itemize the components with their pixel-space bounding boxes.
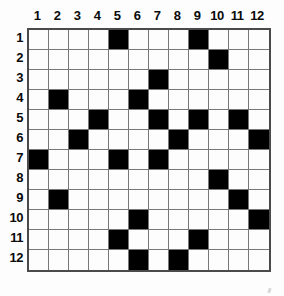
grid-cell-r8c7[interactable]: [149, 170, 169, 190]
grid-cell-r12c1[interactable]: [29, 250, 49, 270]
grid-cell-r3c8[interactable]: [169, 70, 189, 90]
grid-cell-r2c8[interactable]: [169, 50, 189, 70]
grid-cell-r2c7[interactable]: [149, 50, 169, 70]
grid-cell-r8c8[interactable]: [169, 170, 189, 190]
grid-cell-r11c2[interactable]: [49, 230, 69, 250]
grid-cell-r8c2[interactable]: [49, 170, 69, 190]
grid-cell-r6c10[interactable]: [209, 130, 229, 150]
grid-cell-r11c10[interactable]: [209, 230, 229, 250]
grid-cell-r2c10[interactable]: [209, 50, 229, 70]
grid-cell-r6c2[interactable]: [49, 130, 69, 150]
grid-cell-r8c5[interactable]: [109, 170, 129, 190]
grid-cell-r1c10[interactable]: [209, 30, 229, 50]
grid-cell-r3c9[interactable]: [189, 70, 209, 90]
grid-cell-r6c3[interactable]: [69, 130, 89, 150]
grid-cell-r5c12[interactable]: [249, 110, 269, 130]
grid-cell-r6c4[interactable]: [89, 130, 109, 150]
grid-cell-r4c9[interactable]: [189, 90, 209, 110]
grid-cell-r11c9[interactable]: [189, 230, 209, 250]
grid-cell-r1c9[interactable]: [189, 30, 209, 50]
grid-cell-r3c10[interactable]: [209, 70, 229, 90]
grid-cell-r2c6[interactable]: [129, 50, 149, 70]
grid-cell-r10c8[interactable]: [169, 210, 189, 230]
grid-cell-r11c1[interactable]: [29, 230, 49, 250]
grid-cell-r12c12[interactable]: [249, 250, 269, 270]
puzzle-grid[interactable]: [27, 28, 271, 272]
grid-cell-r12c2[interactable]: [49, 250, 69, 270]
grid-cell-r7c2[interactable]: [49, 150, 69, 170]
grid-cell-r9c9[interactable]: [189, 190, 209, 210]
grid-cell-r7c12[interactable]: [249, 150, 269, 170]
grid-cell-r4c6[interactable]: [129, 90, 149, 110]
grid-cell-r2c1[interactable]: [29, 50, 49, 70]
grid-cell-r4c5[interactable]: [109, 90, 129, 110]
grid-cell-r8c9[interactable]: [189, 170, 209, 190]
grid-cell-r9c8[interactable]: [169, 190, 189, 210]
grid-cell-r12c9[interactable]: [189, 250, 209, 270]
grid-cell-r3c3[interactable]: [69, 70, 89, 90]
grid-cell-r7c11[interactable]: [229, 150, 249, 170]
grid-cell-r11c11[interactable]: [229, 230, 249, 250]
grid-cell-r4c3[interactable]: [69, 90, 89, 110]
grid-cell-r5c9[interactable]: [189, 110, 209, 130]
grid-cell-r5c10[interactable]: [209, 110, 229, 130]
grid-cell-r11c5[interactable]: [109, 230, 129, 250]
grid-cell-r6c1[interactable]: [29, 130, 49, 150]
grid-cell-r4c4[interactable]: [89, 90, 109, 110]
grid-cell-r2c3[interactable]: [69, 50, 89, 70]
grid-cell-r4c12[interactable]: [249, 90, 269, 110]
grid-cell-r8c3[interactable]: [69, 170, 89, 190]
grid-cell-r3c4[interactable]: [89, 70, 109, 90]
grid-cell-r8c1[interactable]: [29, 170, 49, 190]
grid-cell-r10c4[interactable]: [89, 210, 109, 230]
grid-cell-r1c5[interactable]: [109, 30, 129, 50]
grid-cell-r9c7[interactable]: [149, 190, 169, 210]
grid-cell-r3c6[interactable]: [129, 70, 149, 90]
grid-cell-r1c2[interactable]: [49, 30, 69, 50]
grid-cell-r1c11[interactable]: [229, 30, 249, 50]
grid-cell-r7c6[interactable]: [129, 150, 149, 170]
grid-cell-r5c1[interactable]: [29, 110, 49, 130]
grid-cell-r1c12[interactable]: [249, 30, 269, 50]
grid-cell-r2c2[interactable]: [49, 50, 69, 70]
grid-cell-r6c11[interactable]: [229, 130, 249, 150]
grid-cell-r7c4[interactable]: [89, 150, 109, 170]
grid-cell-r7c5[interactable]: [109, 150, 129, 170]
grid-cell-r5c7[interactable]: [149, 110, 169, 130]
grid-cell-r5c4[interactable]: [89, 110, 109, 130]
grid-cell-r12c10[interactable]: [209, 250, 229, 270]
grid-cell-r2c11[interactable]: [229, 50, 249, 70]
grid-cell-r2c4[interactable]: [89, 50, 109, 70]
grid-cell-r8c11[interactable]: [229, 170, 249, 190]
grid-cell-r12c8[interactable]: [169, 250, 189, 270]
grid-cell-r5c3[interactable]: [69, 110, 89, 130]
grid-cell-r12c3[interactable]: [69, 250, 89, 270]
grid-cell-r11c4[interactable]: [89, 230, 109, 250]
grid-cell-r5c8[interactable]: [169, 110, 189, 130]
grid-cell-r9c10[interactable]: [209, 190, 229, 210]
grid-cell-r7c3[interactable]: [69, 150, 89, 170]
grid-cell-r9c4[interactable]: [89, 190, 109, 210]
grid-cell-r11c3[interactable]: [69, 230, 89, 250]
grid-cell-r9c11[interactable]: [229, 190, 249, 210]
grid-cell-r9c12[interactable]: [249, 190, 269, 210]
grid-cell-r3c5[interactable]: [109, 70, 129, 90]
grid-cell-r12c11[interactable]: [229, 250, 249, 270]
grid-cell-r4c7[interactable]: [149, 90, 169, 110]
grid-cell-r10c7[interactable]: [149, 210, 169, 230]
grid-cell-r10c2[interactable]: [49, 210, 69, 230]
grid-cell-r4c8[interactable]: [169, 90, 189, 110]
grid-cell-r1c6[interactable]: [129, 30, 149, 50]
grid-cell-r10c3[interactable]: [69, 210, 89, 230]
grid-cell-r3c11[interactable]: [229, 70, 249, 90]
grid-cell-r5c5[interactable]: [109, 110, 129, 130]
grid-cell-r8c10[interactable]: [209, 170, 229, 190]
grid-cell-r9c3[interactable]: [69, 190, 89, 210]
grid-cell-r3c7[interactable]: [149, 70, 169, 90]
grid-cell-r4c11[interactable]: [229, 90, 249, 110]
grid-cell-r9c1[interactable]: [29, 190, 49, 210]
grid-cell-r11c12[interactable]: [249, 230, 269, 250]
grid-cell-r3c2[interactable]: [49, 70, 69, 90]
grid-cell-r1c3[interactable]: [69, 30, 89, 50]
grid-cell-r2c5[interactable]: [109, 50, 129, 70]
